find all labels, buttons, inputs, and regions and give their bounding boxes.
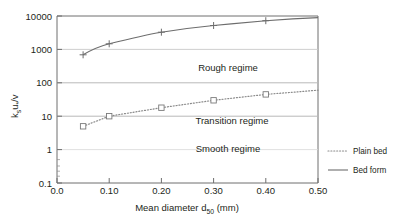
chart-svg: 10000 1000 100 10 1 0.1 ksu*/v 0.0 0.10 …: [0, 0, 399, 223]
y-axis-title-text: ksu*/v: [9, 94, 22, 118]
y-tick-label-100: 100: [36, 77, 52, 88]
plain-bed-marker-0: [80, 124, 85, 129]
y-tick-label-10000: 10000: [26, 11, 52, 22]
x-tick-label-3: 0.30: [204, 185, 223, 196]
annotation-smooth-regime: Smooth regime: [196, 143, 260, 154]
y-tick-label-1: 1: [47, 144, 52, 155]
ylabel-nu: /v: [9, 94, 20, 102]
legend-label-bed-form: Bed form: [353, 166, 386, 175]
plain-bed-marker-3: [211, 98, 216, 103]
annotation-rough-regime: Rough regime: [198, 62, 258, 73]
chart-figure: 10000 1000 100 10 1 0.1 ksu*/v 0.0 0.10 …: [0, 0, 399, 223]
xlabel-unit: (mm): [214, 202, 239, 213]
y-axis-title: ksu*/v: [9, 94, 22, 118]
plain-bed-marker-2: [159, 105, 164, 110]
legend-label-plain-bed: Plain bed: [353, 147, 388, 156]
xlabel-main: Mean diameter d: [135, 202, 206, 213]
x-axis-title: Mean diameter d50 (mm): [135, 202, 239, 215]
x-tick-label-1: 0.10: [100, 185, 119, 196]
x-tick-label-4: 0.40: [257, 185, 276, 196]
plain-bed-marker-4: [263, 92, 268, 97]
x-tick-label-2: 0.20: [152, 185, 171, 196]
x-tick-label-5: 0.50: [309, 185, 328, 196]
y-tick-label-10: 10: [41, 111, 52, 122]
x-tick-label-0: 0.0: [50, 185, 63, 196]
plain-bed-marker-1: [107, 114, 112, 119]
annotation-transition-regime: Transition regime: [195, 115, 268, 126]
y-tick-label-1000: 1000: [31, 44, 52, 55]
